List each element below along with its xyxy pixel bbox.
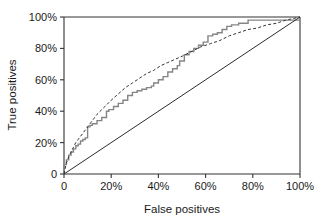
x-tick-label: 60% — [195, 180, 217, 192]
x-axis-title: False positives — [144, 203, 220, 215]
y-tick-label: 20% — [35, 137, 57, 149]
roc-chart-canvas: 020%40%60%80%100% 020%40%60%80%100% Fals… — [0, 0, 328, 223]
y-axis-title: True positives — [6, 59, 18, 130]
x-tick-label: 20% — [100, 180, 122, 192]
y-tick-label: 0 — [51, 168, 57, 180]
x-tick-label: 40% — [147, 180, 169, 192]
x-tick-label: 100% — [286, 180, 314, 192]
y-tick-label: 60% — [35, 74, 57, 86]
x-tick-label: 80% — [242, 180, 264, 192]
roc-chart: 020%40%60%80%100% 020%40%60%80%100% Fals… — [0, 0, 328, 223]
y-tick-label: 40% — [35, 105, 57, 117]
y-tick-label: 100% — [29, 11, 57, 23]
x-tick-label: 0 — [61, 180, 67, 192]
y-tick-label: 80% — [35, 42, 57, 54]
